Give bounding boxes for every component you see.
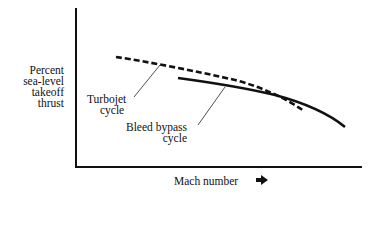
bleed-bypass-label: Bleed bypass cycle xyxy=(126,122,187,144)
y-axis-label-line: thrust xyxy=(23,98,64,109)
turbojet-leader-line xyxy=(134,65,160,97)
turbojet-label: Turbojet cycle xyxy=(87,94,126,116)
right-arrow-icon xyxy=(256,175,268,185)
turbojet-label-line2: cycle xyxy=(87,105,126,116)
y-axis-label: Percent sea-level takeoff thrust xyxy=(23,65,64,109)
x-axis-label: Mach number xyxy=(174,175,238,187)
bleed-label-line2: cycle xyxy=(126,133,187,144)
bleed-leader-line xyxy=(198,87,225,125)
bleed-bypass-cycle-curve xyxy=(178,78,345,127)
